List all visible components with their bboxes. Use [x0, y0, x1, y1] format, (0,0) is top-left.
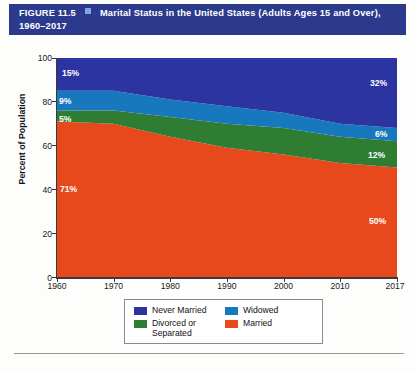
- x-tick-1980: 1980: [150, 281, 190, 291]
- y-tick-label: 20: [22, 229, 52, 239]
- figure-title-banner: FIGURE 11.5Marital Status in the United …: [9, 4, 406, 35]
- x-tick-2017: 2017: [375, 281, 415, 291]
- legend-swatch-divorced-separated: [134, 320, 147, 328]
- y-axis-line: [56, 58, 57, 278]
- y-tick-20: 20: [18, 229, 52, 239]
- label-married-2017: 50%: [369, 216, 386, 226]
- x-tick-1970: 1970: [94, 281, 134, 291]
- label-never-married-2017: 32%: [370, 78, 387, 88]
- y-tick-label: 40: [22, 185, 52, 195]
- y-tick-100: 100: [18, 53, 52, 63]
- legend-item-divorced-separated: Divorced or Separated: [134, 318, 225, 338]
- legend-item-married: Married: [225, 318, 316, 328]
- x-tick-2010: 2010: [320, 281, 360, 291]
- legend-row-2: Divorced or Separated Married: [134, 318, 316, 338]
- label-widowed-2017: 6%: [375, 129, 387, 139]
- square-bullet-icon: [85, 8, 91, 14]
- label-widowed-1960: 9%: [59, 96, 71, 106]
- legend-item-never-married: Never Married: [134, 305, 225, 315]
- legend-swatch-married: [225, 320, 238, 328]
- label-divorced-1960: 5%: [59, 114, 71, 124]
- legend-row-1: Never Married Widowed: [134, 305, 316, 315]
- figure-page: FIGURE 11.5Marital Status in the United …: [0, 0, 415, 371]
- legend-swatch-widowed: [225, 307, 238, 315]
- x-tick-2000: 2000: [264, 281, 304, 291]
- chart-container: Percent of Population 0 20 40 60 80 100: [0, 36, 415, 296]
- legend-label-divorced-separated: Divorced or Separated: [152, 318, 225, 338]
- legend-item-widowed: Widowed: [225, 305, 316, 315]
- y-tick-label: 60: [22, 141, 52, 151]
- label-married-1960: 71%: [60, 184, 77, 194]
- footer-divider: [14, 353, 404, 354]
- legend-label-widowed: Widowed: [243, 305, 278, 315]
- label-never-married-1960: 15%: [62, 68, 79, 78]
- x-tick-1960: 1960: [37, 281, 77, 291]
- y-tick-40: 40: [18, 185, 52, 195]
- figure-number: FIGURE 11.5: [19, 8, 76, 18]
- chart-legend: Never Married Widowed Divorced or Separa…: [124, 299, 323, 344]
- figure-title-line: FIGURE 11.5Marital Status in the United …: [19, 7, 398, 32]
- y-tick-label: 80: [22, 97, 52, 107]
- stacked-area-svg: [57, 58, 397, 277]
- y-tick-label: 100: [22, 53, 52, 63]
- y-tick-80: 80: [18, 97, 52, 107]
- label-divorced-2017: 12%: [368, 150, 385, 160]
- legend-swatch-never-married: [134, 307, 147, 315]
- plot-area: [57, 58, 397, 277]
- legend-label-never-married: Never Married: [152, 305, 206, 315]
- legend-label-married: Married: [243, 318, 272, 328]
- x-tick-1990: 1990: [207, 281, 247, 291]
- y-tick-60: 60: [18, 141, 52, 151]
